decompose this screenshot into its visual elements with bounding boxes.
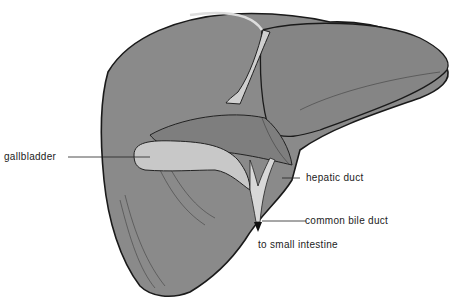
flow-arrow — [254, 222, 262, 232]
label-common-bile-duct: common bile duct — [305, 215, 388, 226]
label-gallbladder: gallbladder — [4, 151, 56, 162]
label-to-small-intestine: to small intestine — [258, 239, 338, 250]
label-hepatic-duct: hepatic duct — [306, 172, 364, 183]
liver-illustration — [0, 0, 461, 302]
